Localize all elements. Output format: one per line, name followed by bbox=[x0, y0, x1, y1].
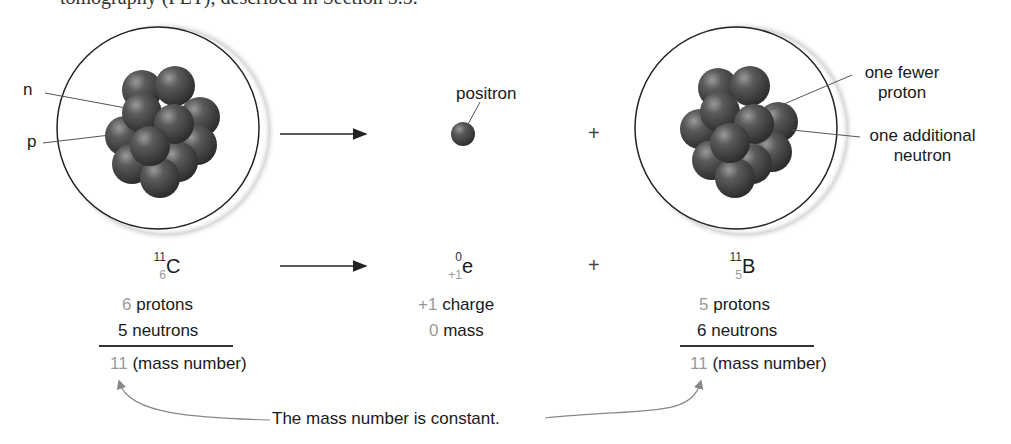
carbon-11-symbol: 116C bbox=[144, 252, 180, 278]
mass-constant-caption: The mass number is constant. bbox=[272, 409, 500, 429]
boron-protons: 5 protons bbox=[699, 295, 770, 315]
boron-11-symbol: 115B bbox=[720, 252, 755, 278]
plus-sign-top: + bbox=[588, 122, 600, 145]
carbon-mass-number: 11 (mass number) bbox=[110, 354, 247, 374]
positron-symbol: 0+1e bbox=[440, 252, 473, 278]
proton-label: p bbox=[27, 132, 36, 152]
boron-sum-rule bbox=[680, 345, 814, 347]
carbon-sum-rule bbox=[99, 345, 233, 347]
positron-label: positron bbox=[456, 84, 516, 104]
carbon-neutrons: 5 neutrons bbox=[118, 321, 198, 341]
curved-arrow-left bbox=[120, 384, 270, 420]
boron-nucleus-illustration bbox=[634, 21, 860, 241]
one-fewer-proton-label: one fewer proton bbox=[852, 63, 952, 103]
carbon-nucleus-illustration bbox=[43, 21, 276, 241]
neutron-label: n bbox=[23, 80, 32, 100]
plus-sign-bottom: + bbox=[588, 254, 600, 277]
carbon-protons: 6 protons bbox=[122, 295, 193, 315]
positron-mass: 0 mass bbox=[429, 321, 484, 341]
curved-arrow-right bbox=[545, 384, 700, 418]
boron-mass-number: 11 (mass number) bbox=[690, 354, 827, 374]
positron-charge: +1 charge bbox=[418, 295, 494, 315]
boron-neutrons: 6 neutrons bbox=[697, 321, 777, 341]
one-additional-neutron-label: one additional neutron bbox=[860, 126, 985, 166]
positron-illustration bbox=[451, 102, 480, 146]
